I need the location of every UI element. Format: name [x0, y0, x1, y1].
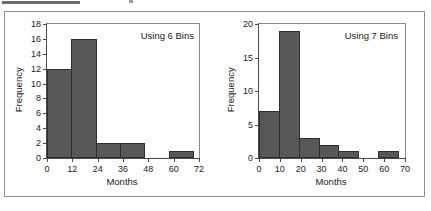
y-axis-tick [255, 58, 259, 59]
y-axis-tick-label: 16 [31, 34, 41, 43]
y-axis-tick-label: 10 [243, 87, 253, 96]
plot-wrapper-six-bins: Frequency 0246810121416180122436486072 M… [46, 23, 198, 157]
y-axis-tick [43, 128, 47, 129]
x-axis-tick [72, 158, 73, 162]
x-axis-tick [199, 158, 200, 162]
y-axis-tick [255, 24, 259, 25]
x-axis-tick-label: 30 [317, 165, 327, 174]
x-axis-tick-label: 60 [379, 165, 389, 174]
y-axis-tick-label: 0 [36, 154, 41, 163]
histogram-bar [319, 145, 340, 158]
y-axis-tick-label: 2 [36, 139, 41, 148]
y-axis-tick [255, 125, 259, 126]
y-axis-tick [43, 113, 47, 114]
x-axis-tick [384, 158, 385, 162]
y-axis-tick-label: 15 [243, 53, 253, 62]
y-axis-tick-label: 6 [36, 109, 41, 118]
x-axis-tick [174, 158, 175, 162]
x-axis-tick [405, 158, 406, 162]
bar-series-six-bins [47, 24, 199, 158]
x-axis-tick [123, 158, 124, 162]
histogram-bar [169, 151, 194, 158]
histogram-bar [71, 39, 96, 158]
x-axis-tick-label: 70 [400, 165, 410, 174]
y-axis-tick [43, 54, 47, 55]
histogram-bar [279, 31, 300, 158]
x-axis-tick [98, 158, 99, 162]
y-axis-tick-label: 10 [31, 79, 41, 88]
y-axis-tick [43, 39, 47, 40]
y-axis-tick-label: 4 [36, 124, 41, 133]
x-axis-tick-label: 36 [118, 165, 128, 174]
histogram-bar [299, 138, 320, 158]
x-axis-tick-label: 40 [337, 165, 347, 174]
y-axis-title-seven-bins: Frequency [225, 67, 235, 112]
y-axis-tick [43, 69, 47, 70]
x-axis-tick [342, 158, 343, 162]
x-axis-tick-label: 0 [44, 165, 49, 174]
y-axis-tick-label: 0 [248, 154, 253, 163]
charts-row: Frequency 0246810121416180122436486072 M… [5, 12, 424, 196]
x-axis-tick [363, 158, 364, 162]
y-axis-tick [43, 24, 47, 25]
x-axis-title-six-bins: Months [46, 177, 198, 187]
y-axis-tick-label: 14 [31, 49, 41, 58]
x-axis-tick-label: 20 [296, 165, 306, 174]
x-axis-tick [301, 158, 302, 162]
x-axis-tick-label: 24 [93, 165, 103, 174]
y-axis-tick [43, 84, 47, 85]
x-axis-tick [259, 158, 260, 162]
x-axis-tick-label: 50 [358, 165, 368, 174]
x-axis-tick-label: 10 [275, 165, 285, 174]
y-axis-tick [43, 98, 47, 99]
scan-artifact-mark [129, 0, 133, 3]
scan-artifact-top-bar [2, 1, 80, 4]
x-axis-tick-label: 0 [256, 165, 261, 174]
y-axis-tick-label: 12 [31, 64, 41, 73]
x-axis-tick [148, 158, 149, 162]
histogram-bar [47, 69, 72, 158]
plot-wrapper-seven-bins: Frequency 05101520010203040506070 Months… [258, 23, 404, 157]
chart-seven-bins: Frequency 05101520010203040506070 Months… [216, 12, 424, 196]
x-axis-tick-label: 48 [143, 165, 153, 174]
figure-frame: Frequency 0246810121416180122436486072 M… [4, 11, 425, 197]
y-axis-title-six-bins: Frequency [13, 67, 23, 112]
histogram-bar [338, 151, 359, 158]
histogram-bar [378, 151, 399, 158]
y-axis-tick-label: 8 [36, 94, 41, 103]
y-axis-tick [43, 143, 47, 144]
bar-series-seven-bins [259, 24, 405, 158]
plot-area-six-bins: 0246810121416180122436486072 [46, 23, 200, 159]
x-axis-tick-label: 72 [194, 165, 204, 174]
y-axis-tick-label: 18 [31, 20, 41, 29]
chart-six-bins: Frequency 0246810121416180122436486072 M… [5, 12, 216, 196]
histogram-bar [96, 143, 121, 158]
y-axis-tick [255, 91, 259, 92]
annotation-seven-bins: Using 7 Bins [345, 31, 398, 41]
histogram-bar [259, 111, 280, 158]
y-axis-tick-label: 5 [248, 120, 253, 129]
x-axis-tick [47, 158, 48, 162]
histogram-bar [120, 143, 145, 158]
y-axis-tick-label: 20 [243, 20, 253, 29]
x-axis-tick-label: 12 [67, 165, 77, 174]
x-axis-tick [280, 158, 281, 162]
annotation-six-bins: Using 6 Bins [141, 31, 194, 41]
x-axis-tick-label: 60 [169, 165, 179, 174]
x-axis-title-seven-bins: Months [258, 177, 404, 187]
plot-area-seven-bins: 05101520010203040506070 [258, 23, 406, 159]
x-axis-tick [322, 158, 323, 162]
